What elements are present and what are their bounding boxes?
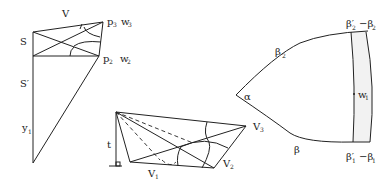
label-w2-sub: 2 (127, 58, 131, 65)
curve-beta2 (236, 31, 368, 95)
edge-apex-v3 (116, 112, 246, 126)
label-w3-sub: 3 (128, 21, 132, 28)
curve-beta (236, 95, 353, 142)
arc-upper (84, 27, 100, 37)
label-top-band-minus-sub: 2 (372, 24, 376, 31)
label-t: t (107, 139, 111, 150)
right-figure: α β 2 β w 1 β′ 2 −β 2 β′ 1 −β 1 (236, 18, 376, 164)
label-y1-sub: 1 (28, 128, 32, 135)
arc-dashed (162, 160, 176, 165)
label-w1-sub: 1 (365, 94, 369, 101)
label-v1-sub: 1 (155, 173, 159, 180)
edge-v1-v2 (130, 162, 214, 168)
left-figure: V S S′ y 1 p 3 w 3 p 2 w 2 (20, 8, 132, 163)
label-beta: β (294, 144, 300, 155)
label-v3-sub: 3 (260, 126, 264, 133)
point-w1 (353, 93, 355, 95)
arc-vertical (202, 122, 210, 168)
label-p2-sub: 2 (109, 58, 113, 65)
edge-hypotenuse (33, 56, 99, 163)
label-p3-sub: 3 (113, 21, 117, 28)
label-y1: y (21, 122, 28, 133)
middle-figure: t V 1 V 2 V 3 (107, 112, 264, 180)
label-v2-sub: 2 (230, 163, 234, 170)
label-s: S (20, 36, 27, 47)
dashed-line-1 (116, 112, 193, 143)
arc-small (177, 147, 181, 166)
label-s-prime: S′ (20, 78, 30, 89)
right-angle-marker (116, 162, 120, 166)
label-beta2-sub: 2 (282, 52, 286, 59)
label-v: V (61, 8, 70, 19)
geometry-diagram: V S S′ y 1 p 3 w 3 p 2 w 2 t (0, 0, 392, 182)
label-beta2: β (275, 46, 281, 57)
label-bottom-band-sub: 1 (352, 157, 356, 164)
diagonal-1 (33, 32, 99, 56)
arc-middle (74, 42, 101, 47)
edge-p3-p2 (99, 22, 103, 56)
label-bottom-band-minus-sub: 1 (372, 157, 376, 164)
arc-lower (70, 47, 74, 56)
label-alpha: α (244, 91, 251, 102)
label-top-band-sub: 2 (352, 24, 356, 31)
